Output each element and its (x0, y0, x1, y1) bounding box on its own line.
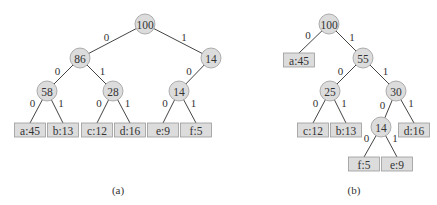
tree-edge (145, 24, 211, 58)
leaf-node: f:5 (349, 157, 380, 171)
edge-label-bit: 0 (30, 97, 36, 109)
subfigure-caption: (a) (112, 184, 125, 197)
edge-label-bit: 1 (383, 65, 389, 77)
subfigure-caption: (b) (348, 184, 361, 197)
node-label: 86 (74, 53, 86, 65)
node-label: e:9 (156, 125, 170, 137)
tree-a-fixed-length-code: 010100101011008614582814a:45b:13c:12d:16… (15, 14, 222, 197)
node-label: a:45 (289, 55, 309, 67)
node-label: d:16 (404, 125, 425, 137)
leaf-node: c:12 (82, 123, 113, 137)
edge-label-bit: 0 (186, 65, 192, 77)
internal-node: 14 (201, 48, 221, 68)
node-label: b:13 (53, 125, 74, 137)
tree-edge (80, 24, 145, 58)
internal-node: 25 (320, 81, 340, 101)
leaf-node: d:16 (399, 123, 430, 137)
internal-node: 14 (371, 117, 391, 137)
node-label: 55 (357, 53, 369, 65)
edge-label-bit: 1 (191, 97, 197, 109)
node-label: 14 (375, 122, 387, 134)
internal-node: 30 (386, 81, 406, 101)
edge-label-bit: 0 (338, 65, 344, 77)
edge-label-bit: 0 (364, 132, 370, 144)
node-label: c:12 (87, 125, 107, 137)
internal-node: 55 (353, 48, 373, 68)
leaf-node: e:9 (382, 157, 413, 171)
edge-label-bit: 0 (305, 29, 311, 41)
leaf-node: a:45 (15, 123, 46, 137)
edge-label-bit: 1 (58, 97, 64, 109)
node-label: 58 (41, 86, 53, 98)
node-label: b:13 (336, 125, 357, 137)
node-label: 14 (173, 86, 185, 98)
edge-label-bit: 1 (349, 31, 355, 43)
edge-label-bit: 0 (313, 97, 319, 109)
node-label: 14 (205, 53, 217, 65)
edge-label-bit: 1 (341, 97, 347, 109)
internal-node: 100 (135, 14, 155, 34)
leaf-node: f:5 (181, 123, 212, 137)
internal-node: 100 (319, 14, 339, 34)
node-label: 25 (324, 86, 336, 98)
leaf-node: b:13 (48, 123, 79, 137)
node-label: d:16 (120, 125, 141, 137)
leaf-node: c:12 (298, 123, 329, 137)
edge-label-bit: 0 (55, 65, 61, 77)
node-label: a:45 (20, 125, 40, 137)
node-label: e:9 (390, 159, 404, 171)
node-label: 30 (390, 86, 402, 98)
edge-label-bit: 1 (392, 132, 398, 144)
edge-label-bit: 1 (125, 97, 131, 109)
edge-label-bit: 1 (181, 31, 187, 43)
internal-node: 86 (70, 48, 90, 68)
internal-node: 14 (169, 81, 189, 101)
node-label: c:12 (303, 125, 323, 137)
node-label: 100 (320, 19, 338, 31)
leaf-node: a:45 (284, 53, 315, 67)
node-label: f:5 (358, 159, 371, 171)
leaf-node: e:9 (148, 123, 179, 137)
node-label: f:5 (190, 125, 203, 137)
edge-label-bit: 1 (408, 97, 414, 109)
edge-label-bit: 0 (96, 97, 102, 109)
huffman-code-trees-diagram: 010100101011008614582814a:45b:13c:12d:16… (0, 0, 437, 205)
edge-label-bit: 0 (380, 99, 386, 111)
leaf-node: d:16 (115, 123, 146, 137)
internal-node: 28 (103, 81, 123, 101)
node-label: 100 (136, 19, 154, 31)
tree-b-optimal-prefix-code: 0101010101100a:45552530c:12b:1314d:16f:5… (284, 14, 430, 197)
internal-node: 58 (37, 81, 57, 101)
leaf-node: b:13 (331, 123, 362, 137)
edge-label-bit: 0 (104, 31, 110, 43)
node-label: 28 (107, 86, 119, 98)
edge-label-bit: 0 (162, 97, 168, 109)
edge-label-bit: 1 (100, 65, 106, 77)
